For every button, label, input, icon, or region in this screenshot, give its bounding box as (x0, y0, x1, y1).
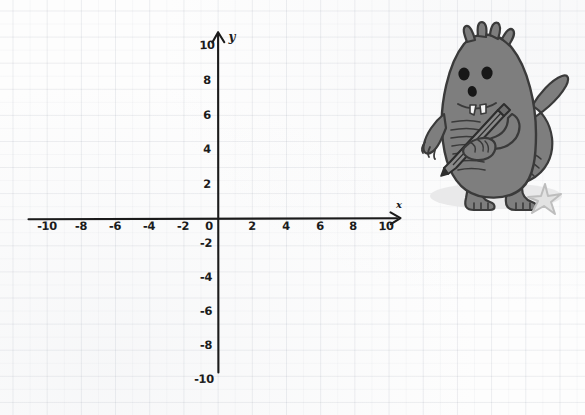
y-tick-label--10: -10 (194, 372, 214, 386)
monster-eye-left (458, 68, 469, 81)
x-tick-label-10: 10 (378, 219, 394, 233)
y-tick-label-2: 2 (203, 177, 211, 191)
x-tick-label-8: 8 (349, 219, 357, 233)
monster-body (442, 35, 536, 198)
y-tick-label--6: -6 (200, 304, 212, 318)
x-tick-label-6: 6 (316, 219, 324, 233)
y-tick-label--2: -2 (200, 236, 212, 250)
star-icon (524, 181, 564, 217)
star-doodle (524, 181, 564, 217)
x-tick-label-4: 4 (282, 219, 290, 233)
x-tick-label-2: 2 (248, 219, 256, 233)
y-tick-label-4: 4 (203, 142, 211, 156)
x-tick-label--2: -2 (177, 219, 189, 233)
x-tick-label--4: -4 (143, 219, 155, 233)
x-tick-label--6: -6 (109, 219, 121, 233)
x-tick-label--8: -8 (75, 219, 87, 233)
x-axis-label: x (396, 199, 402, 210)
worksheet-page: -10 -8 -6 -4 -2 0 2 4 6 8 10 10 8 6 4 2 … (0, 0, 585, 415)
y-tick-label--4: -4 (200, 270, 212, 284)
monster-tooth-right (480, 104, 486, 114)
origin-label: 0 (205, 219, 213, 233)
y-axis-label: y (229, 30, 236, 44)
y-tick-label-6: 6 (203, 108, 211, 122)
x-tick-label--10: -10 (37, 219, 57, 233)
y-tick-label-10: 10 (199, 38, 215, 52)
monster-tooth-left (470, 105, 476, 115)
y-tick-label-8: 8 (203, 73, 211, 87)
y-tick-label--8: -8 (200, 338, 212, 352)
monster-eye-right (481, 67, 492, 80)
